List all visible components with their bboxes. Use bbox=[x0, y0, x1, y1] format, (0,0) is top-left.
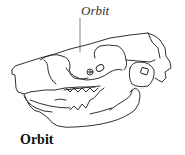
mandible-inner bbox=[30, 99, 70, 108]
process bbox=[95, 63, 105, 72]
foramen-inner bbox=[89, 71, 91, 73]
foramen bbox=[87, 69, 93, 75]
orbit-rim-upper bbox=[40, 55, 88, 79]
orbit-callout-label: Orbit bbox=[81, 4, 109, 18]
figure-canvas: Orbit Orbit bbox=[0, 0, 185, 155]
lower-molars bbox=[70, 98, 94, 110]
coronoid-process bbox=[95, 88, 132, 110]
mandible-outline bbox=[24, 88, 140, 127]
auditory-meatus bbox=[140, 67, 148, 75]
ramus-line bbox=[90, 108, 112, 114]
suture-parietal bbox=[148, 33, 160, 58]
incisor-upper bbox=[44, 60, 56, 84]
figure-caption: Orbit bbox=[20, 132, 53, 148]
auditory-bulla bbox=[129, 62, 154, 87]
upper-molars bbox=[66, 88, 98, 92]
